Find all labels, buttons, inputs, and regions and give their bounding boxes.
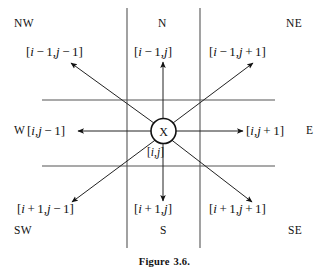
arrow-north-west xyxy=(71,63,158,126)
nw-row-op: − xyxy=(34,44,46,59)
e-close: ] xyxy=(280,123,284,138)
north-west-neighbor-label: [i−1,j−1] xyxy=(26,45,83,58)
north-east-neighbor-label: [i−1,j+1] xyxy=(209,45,266,58)
arrow-north-east xyxy=(169,63,253,126)
compass-label-ne: NE xyxy=(286,18,302,30)
se-col-op: + xyxy=(243,201,255,216)
sw-close: ] xyxy=(70,201,74,216)
nw-close: ] xyxy=(79,44,83,59)
compass-label-e: E xyxy=(306,125,313,137)
figure-caption: Figure3.6. xyxy=(0,256,329,267)
west-neighbor-label: [i,j−1] xyxy=(27,124,65,137)
ne-col-op: + xyxy=(243,44,255,59)
center-cell-index-label: [i,j] xyxy=(147,147,164,159)
figure-caption-number: 3.6. xyxy=(170,256,191,267)
ne-row-op: − xyxy=(217,44,229,59)
compass-label-sw: SW xyxy=(14,225,32,237)
nw-col-op: − xyxy=(60,44,72,59)
w-close: ] xyxy=(61,123,65,138)
compass-label-n: N xyxy=(158,18,167,30)
south-east-neighbor-label: [i+1,j+1] xyxy=(209,202,266,215)
figure-caption-label: Figure xyxy=(139,256,170,267)
east-neighbor-label: [i,j+1] xyxy=(246,124,284,137)
w-col-op: − xyxy=(42,123,54,138)
s-row-op: + xyxy=(142,201,154,216)
compass-label-w: W xyxy=(14,125,25,137)
south-neighbor-label: [i+1,j] xyxy=(134,202,172,215)
north-neighbor-label: [i−1,j] xyxy=(134,45,172,58)
compass-label-nw: NW xyxy=(14,18,34,30)
se-close: ] xyxy=(262,201,266,216)
compass-label-se: SE xyxy=(288,225,302,237)
ne-close: ] xyxy=(262,44,266,59)
s-close: ] xyxy=(168,201,172,216)
n-row-op: − xyxy=(142,44,154,59)
e-col-op: + xyxy=(261,123,273,138)
center-index-close: ] xyxy=(160,146,164,158)
arrow-south-east xyxy=(169,138,252,202)
sw-row-op: + xyxy=(25,201,37,216)
arrow-south-west xyxy=(72,138,158,202)
sw-col-op: − xyxy=(51,201,63,216)
n-close: ] xyxy=(168,44,172,59)
center-node-marker: X xyxy=(154,126,174,138)
south-west-neighbor-label: [i+1,j−1] xyxy=(17,202,74,215)
compass-label-s: S xyxy=(160,225,167,237)
se-row-op: + xyxy=(217,201,229,216)
figure-3-6: X [i,j] NW N NE SW S SE [i−1,j−1] [i−1,j… xyxy=(0,0,329,276)
